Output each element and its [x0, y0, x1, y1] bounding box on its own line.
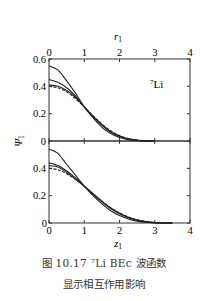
curve-bottom-curve1 — [49, 149, 172, 223]
x-tick-label: 0 — [46, 47, 51, 58]
curve-top-curve3 — [49, 85, 155, 141]
figure-caption-line2: 显示相互作用影响 — [0, 276, 208, 291]
plot-frame-bottom — [49, 141, 190, 223]
isotope-annotation: 7Li — [150, 78, 163, 90]
y-tick-label: 0.4 — [33, 163, 47, 174]
plot-frame-top — [49, 59, 190, 141]
y-tick-label: 0 — [41, 136, 46, 147]
curve-top-curve2 — [49, 80, 155, 142]
y-tick-label: 0.2 — [33, 190, 46, 201]
x-tick-label: 1 — [82, 47, 87, 58]
bottom-x-axis-label: z1 — [113, 237, 122, 251]
x-tick-label: 4 — [187, 47, 193, 58]
corner-zero-label: 0 — [42, 218, 47, 229]
y-tick-label: 0.2 — [33, 108, 46, 119]
x-tick-label: 4 — [187, 225, 193, 236]
x-tick-label: 3 — [152, 225, 157, 236]
x-tick-label: 2 — [117, 225, 122, 236]
x-tick-label: 3 — [152, 47, 157, 58]
y-axis-label: Ψ1 — [12, 135, 26, 147]
x-tick-label: 2 — [117, 47, 122, 58]
curve-top-curve1 — [49, 66, 155, 141]
top-x-axis-label: r1 — [114, 30, 122, 44]
curve-bottom-curve2 — [49, 163, 172, 223]
y-tick-label: 0.6 — [33, 54, 46, 65]
curve-bottom-curve4 — [49, 168, 172, 223]
x-tick-label: 0 — [46, 225, 51, 236]
curve-top-curve4 — [49, 86, 155, 141]
y-tick-label: 0.4 — [33, 81, 47, 92]
figure-caption-line1: 图 10.17 ⁷Li BEc 波函数 — [0, 255, 208, 270]
x-tick-label: 1 — [82, 225, 87, 236]
